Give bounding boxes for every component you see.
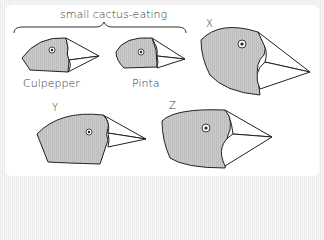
group-bracket: [14, 22, 186, 33]
label-culpepper: Culpepper: [23, 77, 80, 90]
label-y: Y: [52, 102, 58, 113]
label-z: Z: [169, 100, 176, 111]
y-head: [37, 114, 146, 164]
x-head: [201, 28, 310, 96]
z-head: [162, 110, 272, 168]
pinta-head: [116, 38, 185, 68]
label-pinta: Pinta: [132, 77, 159, 90]
label-x: X: [206, 18, 213, 29]
culpepper-head: [22, 38, 99, 72]
finch-heads-diagram: [0, 0, 324, 183]
group-label: small cactus-eating: [60, 8, 167, 21]
